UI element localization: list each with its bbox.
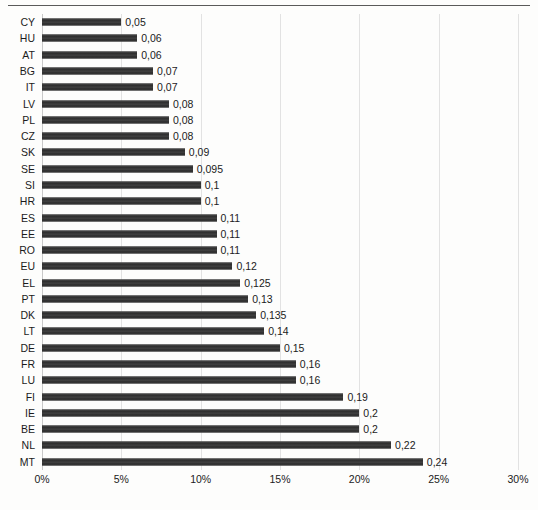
bar-value-ee: 0,11 [217,229,241,240]
category-label-se: SE [21,163,35,174]
bar-row: LT0,14 [42,323,518,339]
bar-pt [42,295,248,302]
category-label-hu: HU [20,33,35,44]
x-tick-20%: 20% [349,474,370,485]
bar-value-pl: 0,08 [169,115,193,126]
bar-row: BG0,07 [42,63,518,79]
bar-hr [42,198,201,205]
bar-value-de: 0,15 [280,343,304,354]
bar-row: SK0,09 [42,144,518,160]
bar-row: NL0,22 [42,437,518,453]
bar-de [42,344,280,351]
bar-fi [42,393,343,400]
category-label-cz: CZ [21,131,35,142]
bar-si [42,181,201,188]
category-label-pl: PL [22,115,35,126]
category-label-ro: RO [19,245,35,256]
category-label-sk: SK [21,147,35,158]
bar-value-bg: 0,07 [153,66,177,77]
bar-row: AT0,06 [42,47,518,63]
bar-hu [42,35,137,42]
bar-value-it: 0,07 [153,82,177,93]
bar-value-lu: 0,16 [296,375,320,386]
bar-value-cz: 0,08 [169,131,193,142]
category-label-be: BE [21,424,35,435]
top-divider-rule [8,5,530,6]
bar-row: SE0,095 [42,161,518,177]
bar-row: FR0,16 [42,356,518,372]
bar-fr [42,361,296,368]
bar-chart: CY0,05HU0,06AT0,06BG0,07IT0,07LV0,08PL0,… [0,0,538,510]
bar-value-lt: 0,14 [264,326,288,337]
category-label-el: EL [22,277,35,288]
x-axis-tick-labels: 0%5%10%15%20%25%30% [42,474,518,494]
category-label-dk: DK [20,310,35,321]
bar-row: LU0,16 [42,372,518,388]
x-tick-15%: 15% [269,474,290,485]
bar-it [42,84,153,91]
category-label-ee: EE [21,229,35,240]
bar-value-fr: 0,16 [296,359,320,370]
category-label-si: SI [25,180,35,191]
bar-sk [42,149,185,156]
category-label-fi: FI [26,391,35,402]
bar-row: MT0,24 [42,454,518,470]
bar-at [42,51,137,58]
bar-value-lv: 0,08 [169,98,193,109]
bar-value-es: 0,11 [217,212,241,223]
category-label-bg: BG [20,66,35,77]
bar-row: DK0,135 [42,307,518,323]
category-label-de: DE [20,343,35,354]
bar-cz [42,133,169,140]
bar-row: PT0,13 [42,291,518,307]
bar-eu [42,263,232,270]
bar-row: IE0,2 [42,405,518,421]
category-label-at: AT [22,49,35,60]
bar-ee [42,230,217,237]
bar-dk [42,312,256,319]
category-label-cy: CY [20,17,35,28]
bar-row: EL0,125 [42,275,518,291]
bar-es [42,214,217,221]
x-tick-10%: 10% [190,474,211,485]
category-label-pt: PT [22,294,35,305]
bar-row: SI0,1 [42,177,518,193]
bar-value-el: 0,125 [240,277,270,288]
bar-ro [42,247,217,254]
category-label-lv: LV [23,98,35,109]
bar-row: CY0,05 [42,14,518,30]
bar-cy [42,19,121,26]
bar-lt [42,328,264,335]
bar-lu [42,377,296,384]
bar-value-sk: 0,09 [185,147,209,158]
bar-value-cy: 0,05 [121,17,145,28]
bar-row: EE0,11 [42,226,518,242]
bar-row: IT0,07 [42,79,518,95]
bar-value-fi: 0,19 [343,391,367,402]
bar-pl [42,116,169,123]
x-tick-25%: 25% [428,474,449,485]
x-tick-5%: 5% [114,474,129,485]
bar-value-eu: 0,12 [232,261,256,272]
bar-ie [42,409,359,416]
bar-value-hu: 0,06 [137,33,161,44]
bar-row: ES0,11 [42,209,518,225]
category-label-hr: HR [20,196,35,207]
category-label-eu: EU [20,261,35,272]
bar-row: LV0,08 [42,95,518,111]
bar-value-at: 0,06 [137,49,161,60]
bar-row: DE0,15 [42,340,518,356]
bar-value-be: 0,2 [359,424,378,435]
bar-mt [42,458,423,465]
category-label-lt: LT [24,326,35,337]
bar-row: BE0,2 [42,421,518,437]
bar-row: PL0,08 [42,112,518,128]
x-tick-30%: 30% [507,474,528,485]
bar-nl [42,442,391,449]
bar-se [42,165,193,172]
category-label-fr: FR [21,359,35,370]
category-label-it: IT [26,82,35,93]
category-label-mt: MT [20,456,35,467]
bar-value-pt: 0,13 [248,294,272,305]
bar-value-ie: 0,2 [359,408,378,419]
